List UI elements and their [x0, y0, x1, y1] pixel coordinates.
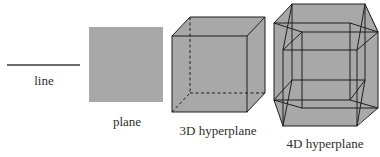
- cube-shape: [172, 17, 265, 112]
- plane-label: plane: [113, 115, 141, 128]
- tesseract-label: 4D hyperplane: [287, 137, 364, 150]
- line-label: line: [34, 74, 54, 87]
- dimension-diagram: line plane 3D hyperplane 4D hyperplane: [0, 0, 380, 157]
- plane-shape: [89, 27, 163, 102]
- cube-label: 3D hyperplane: [180, 124, 257, 137]
- tesseract-shape: [274, 4, 378, 126]
